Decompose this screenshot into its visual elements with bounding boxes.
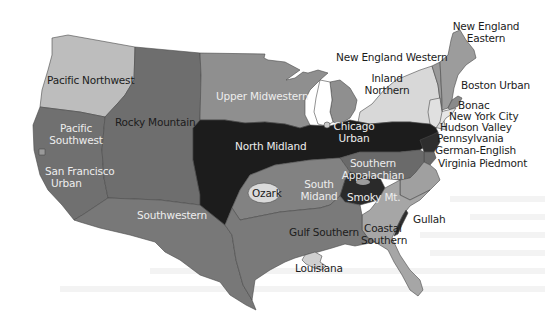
label-louisiana: Louisiana xyxy=(295,262,343,274)
lake-michigan xyxy=(314,80,333,126)
region-chicago-urban-blob[interactable] xyxy=(324,122,330,128)
label-virginia-piedmont: Virginia Piedmont xyxy=(438,157,527,169)
label-new-england-eastern: New England Eastern xyxy=(446,20,526,44)
label-san-francisco-urban: San Francisco Urban xyxy=(45,165,115,189)
label-san-francisco-line1: San Francisco xyxy=(45,165,115,177)
label-pacific-southwest: Pacific Southwest xyxy=(46,122,106,146)
label-inland-line1: Inland xyxy=(362,72,412,84)
label-inland-northern: Inland Northern xyxy=(362,72,412,96)
label-boston-urban: Boston Urban xyxy=(461,79,530,91)
label-coastal-southern: Coastal Southern xyxy=(361,222,407,246)
label-gulf-southern: Gulf Southern xyxy=(289,226,359,238)
label-chicago-line1: Chicago xyxy=(332,120,376,132)
label-german-english: German-English xyxy=(435,144,516,156)
region-michigan[interactable] xyxy=(330,80,357,124)
label-southern-appalachian-line2: Appalachian xyxy=(340,169,406,181)
label-coastal-line1: Coastal xyxy=(361,222,407,234)
label-upper-midwestern: Upper Midwestern xyxy=(216,90,308,102)
label-new-england-western: New England Western xyxy=(336,51,447,63)
label-gullah: Gullah xyxy=(413,213,446,225)
dialect-map: Pacific Northwest Pacific Southwest San … xyxy=(0,0,551,318)
label-pacific-southwest-line1: Pacific xyxy=(46,122,106,134)
label-chicago-line2: Urban xyxy=(332,132,376,144)
label-south-midland-line2: Midand xyxy=(296,190,342,202)
label-southern-appalachian: Southern Appalachian xyxy=(340,157,406,181)
label-southern-appalachian-line1: Southern xyxy=(340,157,406,169)
label-ne-eastern-line1: New England xyxy=(446,20,526,32)
label-coastal-line2: Southern xyxy=(361,234,407,246)
label-southwestern: Southwestern xyxy=(137,209,207,221)
label-south-midland-line1: South xyxy=(296,178,342,190)
label-pacific-northwest: Pacific Northwest xyxy=(47,74,134,86)
label-inland-line2: Northern xyxy=(362,84,412,96)
label-south-midland: South Midand xyxy=(296,178,342,202)
label-smoky-mt: Smoky Mt. xyxy=(347,191,400,203)
label-ne-eastern-line2: Eastern xyxy=(446,32,526,44)
region-san-francisco-box[interactable] xyxy=(39,149,45,155)
label-san-francisco-line2: Urban xyxy=(45,177,115,189)
label-pennsylvania: Pennsylvania xyxy=(437,132,504,144)
label-north-midland: North Midland xyxy=(235,140,306,152)
label-chicago-urban: Chicago Urban xyxy=(332,120,376,144)
label-rocky-mountain: Rocky Mountain xyxy=(115,116,195,128)
label-ozark: Ozark xyxy=(252,187,282,199)
label-pacific-southwest-line2: Southwest xyxy=(46,134,106,146)
